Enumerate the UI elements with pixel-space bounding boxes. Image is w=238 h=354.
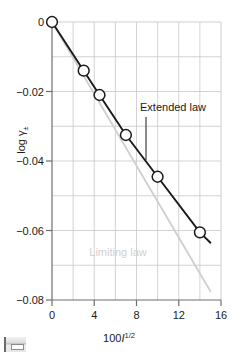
- y-tick-label-neg008: −0.08: [16, 294, 44, 306]
- x-axis-title-prefix: 100: [103, 332, 121, 344]
- y-tick-label-0: 0: [38, 16, 44, 28]
- y-axis-title-prefix: log: [15, 136, 27, 154]
- x-tick-label-12: 12: [173, 309, 185, 321]
- data-point-marker: [195, 227, 206, 238]
- y-axis-title: log γ±: [15, 126, 30, 153]
- annotation-limiting-law-label: Limiting law: [89, 246, 147, 258]
- x-tick-label-16: 16: [215, 309, 227, 321]
- x-tick-label-0: 0: [49, 309, 55, 321]
- y-tick-label-neg006: −0.06: [16, 225, 44, 237]
- data-point-marker: [121, 130, 132, 141]
- chart-canvas: 0 −0.02 −0.04 −0.06 −0.08 0 4 8 12 16 10…: [0, 0, 238, 354]
- x-tick-label-4: 4: [91, 309, 97, 321]
- data-point-marker: [47, 17, 58, 28]
- x-axis-title-superscript: 1/2: [124, 331, 134, 340]
- data-point-marker: [78, 65, 89, 76]
- y-axis-ticks: [46, 22, 52, 300]
- x-tick-label-8: 8: [133, 309, 139, 321]
- y-tick-label-neg002: −0.02: [16, 86, 44, 98]
- figure-container: 0 −0.02 −0.04 −0.06 −0.08 0 4 8 12 16 10…: [0, 0, 238, 354]
- annotation-extended-law-label: Extended law: [140, 101, 206, 113]
- data-point-marker: [94, 90, 105, 101]
- x-axis-ticks: [52, 300, 221, 306]
- x-axis-title: 100I1/2: [103, 331, 135, 344]
- y-tick-label-neg004: −0.04: [16, 155, 44, 167]
- annotation-limiting-law: Limiting law: [89, 246, 147, 258]
- y-axis-title-subscript: ±: [21, 126, 30, 130]
- data-point-marker: [152, 171, 163, 182]
- corner-thumbnail-artifact: [4, 337, 26, 352]
